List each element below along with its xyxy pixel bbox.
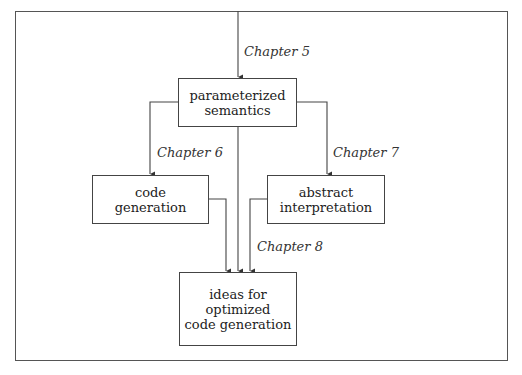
arrow-from-abstract [250, 199, 267, 271]
node-optimized-code-generation: ideas for optimized code generation [179, 272, 297, 346]
node-parameterized-semantics: parameterized semantics [178, 78, 297, 127]
node-text: semantics [204, 103, 270, 118]
node-text: code generation [185, 317, 292, 332]
edge-label-chapter-8: Chapter 8 [257, 239, 323, 254]
node-text: abstract [299, 185, 353, 200]
node-text: parameterized [189, 88, 285, 103]
arrow-chapter-6 [150, 102, 178, 174]
node-abstract-interpretation: abstract interpretation [267, 175, 385, 224]
node-text: generation [115, 200, 187, 215]
node-text: code [135, 185, 166, 200]
node-text: interpretation [280, 200, 372, 215]
node-code-generation: code generation [92, 175, 209, 224]
arrow-from-code-gen [209, 199, 226, 271]
edge-label-chapter-5: Chapter 5 [244, 44, 310, 59]
arrow-chapter-7 [297, 102, 327, 174]
node-text: optimized [206, 302, 271, 317]
edge-label-chapter-6: Chapter 6 [157, 145, 223, 160]
edge-label-chapter-7: Chapter 7 [333, 145, 399, 160]
node-text: ideas for [209, 287, 267, 302]
